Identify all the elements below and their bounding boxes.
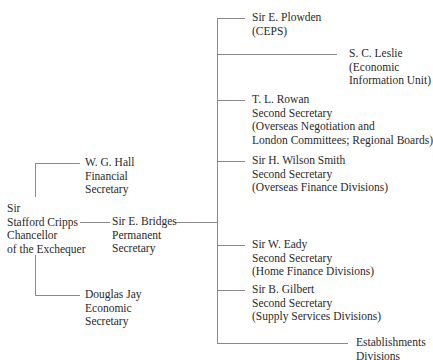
hall-name: W. G. Hall: [85, 156, 134, 170]
rowan-name: T. L. Rowan: [252, 93, 433, 107]
cripps-name: Stafford Cripps: [7, 216, 86, 230]
plowden-connector: [217, 18, 245, 19]
establishments-line-2: Divisions: [356, 350, 426, 360]
plowden-name: Sir E. Plowden: [252, 11, 321, 25]
rowan-note-1: (Overseas Negotiation and: [252, 120, 433, 134]
node-eady: Sir W. Eady Second Secretary (Home Finan…: [252, 238, 374, 279]
rowan-note-2: London Committees; Regional Boards): [252, 134, 433, 148]
gilbert-connector: [217, 290, 245, 291]
cripps-line-1: Sir: [7, 202, 86, 216]
rowan-connector: [217, 100, 245, 101]
gilbert-note: (Supply Services Divisions): [252, 310, 381, 324]
node-plowden: Sir E. Plowden (CEPS): [252, 11, 321, 38]
node-hall: W. G. Hall Financial Secretary: [85, 156, 134, 197]
bridges-spine-connector: [175, 222, 217, 223]
cripps-title-1: Chancellor: [7, 229, 86, 243]
node-rowan: T. L. Rowan Second Secretary (Overseas N…: [252, 93, 433, 147]
eady-name: Sir W. Eady: [252, 238, 374, 252]
wilson-smith-note: (Overseas Finance Divisions): [252, 181, 388, 195]
bridges-title-2: Secretary: [112, 242, 177, 256]
node-gilbert: Sir B. Gilbert Second Secretary (Supply …: [252, 283, 381, 324]
hall-title-1: Financial: [85, 170, 134, 184]
leslie-note-1: (Economic: [349, 61, 431, 75]
hall-connector: [35, 163, 80, 164]
jay-connector: [35, 295, 80, 296]
gilbert-title: Second Secretary: [252, 297, 381, 311]
cripps-vertical-connector-bottom: [35, 255, 36, 296]
wilson-smith-connector: [217, 161, 245, 162]
cripps-vertical-connector-top: [35, 163, 36, 197]
spine-vertical: [217, 18, 218, 344]
node-leslie: S. C. Leslie (Economic Information Unit): [349, 47, 431, 88]
jay-title-1: Economic: [85, 302, 142, 316]
rowan-title: Second Secretary: [252, 107, 433, 121]
jay-title-2: Secretary: [85, 315, 142, 329]
establishments-connector: [217, 343, 348, 344]
eady-connector: [217, 245, 245, 246]
node-wilson-smith: Sir H. Wilson Smith Second Secretary (Ov…: [252, 154, 388, 195]
leslie-name: S. C. Leslie: [349, 47, 431, 61]
node-cripps: Sir Stafford Cripps Chancellor of the Ex…: [7, 202, 86, 256]
leslie-note-2: Information Unit): [349, 74, 431, 88]
jay-name: Douglas Jay: [85, 288, 142, 302]
bridges-title-1: Permanent: [112, 229, 177, 243]
node-bridges: Sir E. Bridges Permanent Secretary: [112, 215, 177, 256]
eady-note: (Home Finance Divisions): [252, 265, 374, 279]
leslie-connector: [217, 54, 337, 55]
eady-title: Second Secretary: [252, 252, 374, 266]
node-establishments: Establishments Divisions: [356, 336, 426, 360]
cripps-title-2: of the Exchequer: [7, 243, 86, 257]
wilson-smith-name: Sir H. Wilson Smith: [252, 154, 388, 168]
hall-title-2: Secretary: [85, 183, 134, 197]
gilbert-name: Sir B. Gilbert: [252, 283, 381, 297]
node-jay: Douglas Jay Economic Secretary: [85, 288, 142, 329]
bridges-name: Sir E. Bridges: [112, 215, 177, 229]
establishments-line-1: Establishments: [356, 336, 426, 350]
plowden-note: (CEPS): [252, 25, 321, 39]
wilson-smith-title: Second Secretary: [252, 168, 388, 182]
